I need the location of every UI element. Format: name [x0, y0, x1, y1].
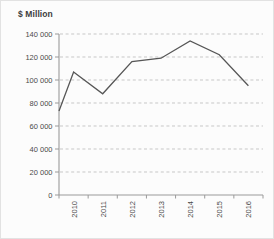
x-axis-tick-label: 2016	[244, 201, 253, 218]
y-axis-tick-label: 0	[48, 191, 52, 200]
line-chart: 020 00040 00060 00080 000100 000120 0001…	[1, 1, 274, 239]
y-axis-tick-label: 60 000	[30, 122, 53, 131]
x-axis-tick-label: 2015	[215, 201, 224, 218]
x-axis-tick-label: 2012	[128, 201, 137, 218]
y-axis-tick-label: 20 000	[30, 168, 53, 177]
y-axis-tick-label: 120 000	[25, 53, 52, 62]
x-axis-tick-label: 2014	[186, 201, 195, 218]
y-axis-tick-label: 40 000	[30, 145, 53, 154]
x-axis-tick-label: 2011	[99, 201, 108, 217]
x-axis-tick-label: 2013	[157, 201, 166, 218]
data-series-line	[59, 41, 248, 111]
chart-panel: $ Million 020 00040 00060 00080 000100 0…	[0, 0, 274, 239]
y-axis-tick-label: 100 000	[25, 76, 52, 85]
y-axis-tick-label: 80 000	[30, 99, 53, 108]
x-axis-tick-label: 2010	[70, 201, 79, 218]
y-axis-tick-label: 140 000	[25, 30, 52, 39]
